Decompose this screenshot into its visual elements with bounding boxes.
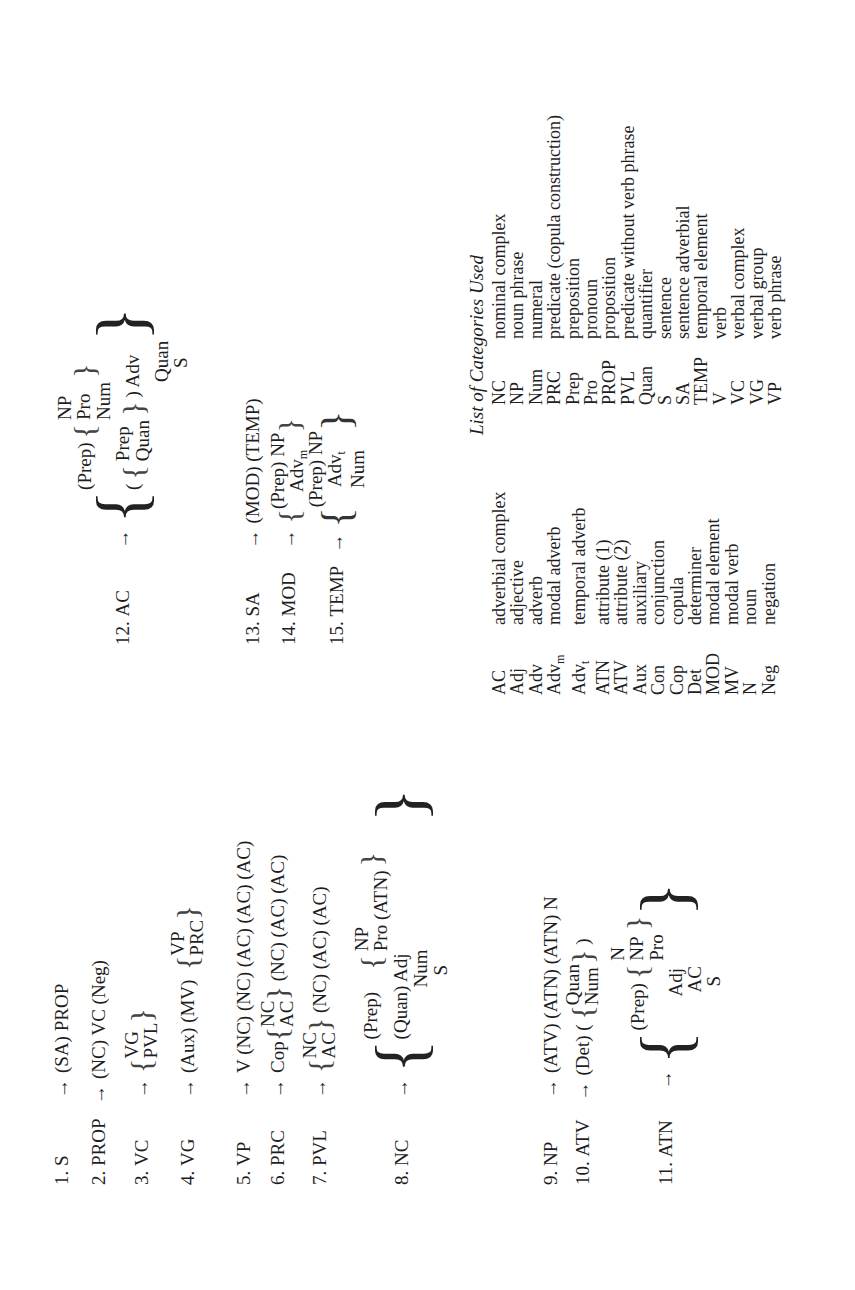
abbr: Neg bbox=[760, 625, 778, 695]
abbr: VG bbox=[748, 339, 766, 405]
label: attribute (2) bbox=[612, 492, 630, 625]
abbr: ATN bbox=[594, 625, 612, 695]
left-brace-icon: { bbox=[359, 955, 383, 969]
rule-number: 13. bbox=[243, 621, 262, 645]
right-brace-icon: } bbox=[277, 418, 301, 432]
abbr: Num bbox=[527, 339, 545, 405]
abbr: Advt bbox=[570, 625, 594, 695]
abbr: V bbox=[711, 339, 729, 405]
left-brace-icon: { bbox=[277, 509, 301, 523]
left-brace-icon: { bbox=[373, 1039, 429, 1073]
label: pronoun bbox=[582, 115, 600, 339]
option: NP bbox=[55, 396, 74, 420]
categories-title: List of Categories Used bbox=[467, 255, 486, 435]
option: ) Adv bbox=[123, 355, 142, 398]
arrow-icon: → bbox=[132, 1079, 151, 1098]
rule-2: 2. PROP → (NC) VC (Neg) bbox=[89, 960, 108, 1185]
rule-6: 6. PRC → Cop { NC AC } (NC) (AC) (AC) bbox=[258, 855, 297, 1185]
option: ( bbox=[123, 484, 142, 490]
arrow-icon: → bbox=[656, 1070, 675, 1089]
rule-suffix: ) bbox=[573, 939, 592, 945]
label: copula bbox=[668, 492, 686, 625]
rule-lhs: VG bbox=[178, 1104, 197, 1166]
left-brace-icon: { bbox=[129, 1059, 153, 1073]
abbr: Con bbox=[649, 625, 667, 695]
right-brace-icon: } bbox=[121, 402, 145, 416]
rule-number: 11. bbox=[656, 1162, 675, 1185]
right-brace-icon: } bbox=[359, 852, 383, 866]
abbr: ATV bbox=[612, 625, 630, 695]
left-brace-icon: { bbox=[175, 956, 199, 970]
abbr: N bbox=[741, 625, 759, 695]
arrow-icon: → bbox=[268, 1079, 287, 1098]
option: Adv bbox=[324, 454, 345, 487]
option: (Prep) bbox=[75, 442, 94, 489]
label: quantifier bbox=[637, 115, 655, 339]
arrow-icon: → bbox=[310, 1079, 329, 1098]
rule-3: 3. VC → { VG PVL } bbox=[122, 1008, 161, 1185]
rule-number: 6. bbox=[268, 1171, 287, 1185]
rule-lhs: AC bbox=[113, 555, 132, 617]
rule-11: 11. ATN → { (Prep) { N NP Pro } Adj AC S… bbox=[608, 882, 723, 1185]
option: Quan bbox=[133, 420, 152, 461]
abbr: PVL bbox=[619, 339, 637, 405]
right-brace-icon: } bbox=[373, 788, 429, 822]
left-brace-icon: { bbox=[320, 507, 354, 527]
rule-lhs: MOD bbox=[279, 555, 298, 617]
abbr: SA bbox=[674, 339, 692, 405]
rule-number: 15. bbox=[327, 621, 346, 645]
abbr: Det bbox=[686, 625, 704, 695]
right-brace-icon: } bbox=[175, 905, 199, 919]
rule-lhs: NP bbox=[541, 1104, 560, 1166]
option: PRC bbox=[187, 920, 206, 956]
option: Num bbox=[582, 967, 601, 1005]
rule-number: 8. bbox=[392, 1171, 411, 1185]
rule-number: 12. bbox=[113, 621, 132, 645]
rule-number: 3. bbox=[132, 1171, 151, 1185]
rule-lhs: PROP bbox=[89, 1110, 108, 1166]
label: adjective bbox=[508, 492, 526, 625]
label: auxiliary bbox=[631, 492, 649, 625]
abbr: Quan bbox=[637, 339, 655, 405]
rule-lhs: VC bbox=[132, 1104, 151, 1166]
right-brace-icon: } bbox=[94, 307, 150, 341]
option: Quan bbox=[563, 964, 582, 1005]
rule-prefix: (Det) ( bbox=[573, 1024, 592, 1075]
rule-rhs: V (NC) (NC) (AC) (AC) (AC) bbox=[234, 841, 253, 1073]
rule-number: 4. bbox=[178, 1171, 197, 1185]
option: Prep bbox=[113, 426, 132, 461]
rule-number: 7. bbox=[310, 1171, 329, 1185]
rule-number: 10. bbox=[573, 1161, 592, 1185]
abbr: VP bbox=[766, 339, 784, 405]
rule-rhs: (ATV) (ATN) (ATN) N bbox=[541, 896, 560, 1073]
arrow-icon: → bbox=[541, 1079, 560, 1098]
arrow-icon: → bbox=[234, 1079, 253, 1098]
option: Quan bbox=[152, 341, 171, 490]
abbr: VC bbox=[729, 339, 747, 405]
rule-suffix: (NC) (AC) (AC) bbox=[268, 855, 287, 982]
arrow-icon: → bbox=[327, 534, 346, 553]
abbr: MOD bbox=[704, 625, 722, 695]
abbr: PROP bbox=[600, 339, 618, 405]
label: negation bbox=[760, 492, 778, 625]
rule-lhs: S bbox=[52, 1104, 71, 1166]
abbr: Pro bbox=[582, 339, 600, 405]
abbr: TEMP bbox=[692, 339, 710, 405]
rule-8: 8. NC → { (Prep) { NP Pro (ATN) } (Quan)… bbox=[352, 788, 451, 1185]
option: AC bbox=[277, 1001, 296, 1027]
right-brace-icon: } bbox=[320, 411, 354, 431]
grammar-rules-page: 1. S → (SA) PROP 2. PROP → (NC) VC (Neg)… bbox=[0, 0, 855, 1290]
option: Num bbox=[94, 382, 113, 420]
label: verbal complex bbox=[729, 115, 747, 339]
rule-number: 9. bbox=[541, 1171, 560, 1185]
label: verb bbox=[711, 115, 729, 339]
option: Pro bbox=[74, 394, 93, 420]
option: NC bbox=[258, 1001, 277, 1027]
option: Pro bbox=[647, 934, 666, 960]
left-brace-icon: { bbox=[265, 1027, 289, 1041]
rule-number: 1. bbox=[52, 1171, 71, 1185]
abbr: PRC bbox=[545, 339, 563, 405]
rule-prefix: (Aux) (MV) bbox=[178, 980, 197, 1073]
rule-9: 9. NP → (ATV) (ATN) (ATN) N bbox=[541, 896, 560, 1185]
option: (Prep) bbox=[361, 992, 381, 1039]
